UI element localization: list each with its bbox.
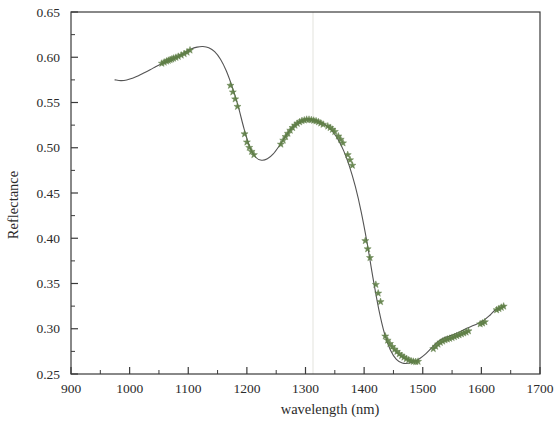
y-tick-label: 0.25	[36, 367, 60, 382]
x-axis-title: wavelength (nm)	[281, 401, 380, 418]
y-tick-label: 0.50	[36, 140, 60, 155]
chart-background	[0, 0, 558, 425]
y-tick-label: 0.45	[36, 186, 60, 201]
x-tick-label: 1300	[292, 381, 319, 396]
x-tick-label: 900	[61, 381, 82, 396]
y-tick-label: 0.65	[36, 5, 60, 20]
y-tick-label: 0.30	[36, 321, 60, 336]
x-tick-label: 1200	[233, 381, 260, 396]
x-tick-label: 1500	[409, 381, 436, 396]
x-axis-tick-labels: 90010001100120013001400150016001700	[61, 381, 554, 396]
x-tick-label: 1700	[527, 381, 554, 396]
y-tick-label: 0.40	[36, 231, 60, 246]
y-tick-label: 0.60	[36, 50, 60, 65]
reflectance-spectrum-chart: 0.250.300.350.400.450.500.550.600.65 900…	[0, 0, 558, 425]
x-tick-label: 1100	[175, 381, 202, 396]
y-tick-label: 0.35	[36, 276, 60, 291]
figure-page: 0.250.300.350.400.450.500.550.600.65 900…	[0, 0, 558, 425]
x-tick-label: 1000	[116, 381, 143, 396]
x-tick-label: 1400	[351, 381, 378, 396]
y-tick-label: 0.55	[36, 95, 60, 110]
y-axis-tick-labels: 0.250.300.350.400.450.500.550.600.65	[36, 5, 60, 382]
y-axis-title: Reflectance	[5, 171, 21, 239]
x-tick-label: 1600	[468, 381, 495, 396]
